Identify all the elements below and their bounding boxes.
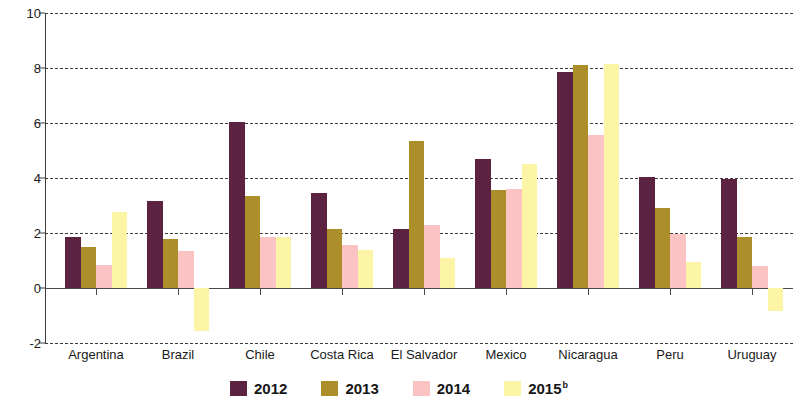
bar-group-chile: Chile (219, 13, 301, 343)
x-axis-category-label: Chile (245, 348, 275, 361)
bar-2014-brazil (178, 251, 194, 288)
x-axis-category-label: Costa Rica (310, 348, 374, 361)
bar-2012-chile (229, 122, 245, 288)
bar-group-brazil: Brazil (137, 13, 219, 343)
y-axis-tick-label: 6 (34, 117, 41, 130)
bar-2013-mexico (491, 190, 507, 288)
bar-2012-argentina (65, 237, 81, 288)
x-tick-mark (260, 288, 261, 295)
x-tick-mark (752, 288, 753, 295)
legend-item-2014[interactable]: 2014 (413, 381, 470, 396)
x-axis-category-label: Nicaragua (558, 348, 617, 361)
x-axis-category-label: El Salvador (391, 348, 457, 361)
bar-2014-chile (260, 237, 276, 288)
x-tick-mark (670, 288, 671, 295)
legend-label-2012: 2012 (254, 381, 287, 396)
legend-item-2012[interactable]: 2012 (230, 381, 287, 396)
bar-group-el-salvador: El Salvador (383, 13, 465, 343)
bar-2015-mexico (522, 164, 538, 288)
bar-2013-el-salvador (409, 141, 425, 288)
legend-swatch-2014 (413, 381, 430, 396)
bar-2013-uruguay (737, 237, 753, 288)
bar-2012-peru (639, 177, 655, 288)
y-axis-tick-label: 10 (27, 7, 41, 20)
bar-group-argentina: Argentina (55, 13, 137, 343)
gridline--2 (45, 343, 793, 344)
x-axis-category-label: Peru (656, 348, 683, 361)
bar-2012-uruguay (721, 179, 737, 288)
bar-2012-el-salvador (393, 229, 409, 288)
bar-2015-costa-rica (358, 250, 374, 289)
bar-2013-brazil (163, 239, 179, 289)
x-axis-category-label: Mexico (485, 348, 526, 361)
bar-2012-nicaragua (557, 72, 573, 288)
y-axis-tick-label: 4 (34, 172, 41, 185)
bar-2014-mexico (506, 189, 522, 288)
x-axis-category-label: Uruguay (727, 348, 776, 361)
x-tick-mark (588, 288, 589, 295)
bar-2015-argentina (112, 212, 128, 288)
bar-2014-uruguay (752, 266, 768, 288)
legend-item-2013[interactable]: 2013 (321, 381, 378, 396)
x-tick-mark (506, 288, 507, 295)
bar-2013-argentina (81, 247, 97, 288)
plot-area: 1086420-2 ArgentinaBrazilChileCosta Rica… (45, 13, 793, 343)
legend-label-2014: 2014 (437, 381, 470, 396)
bar-groups-layer: ArgentinaBrazilChileCosta RicaEl Salvado… (45, 13, 793, 343)
bar-2015-nicaragua (604, 64, 620, 288)
bar-2013-nicaragua (573, 65, 589, 288)
bar-group-peru: Peru (629, 13, 711, 343)
bar-group-uruguay: Uruguay (711, 13, 793, 343)
bar-2015-chile (276, 237, 292, 288)
legend-label-2013: 2013 (345, 381, 378, 396)
legend-footnote-marker: b (563, 380, 569, 390)
chart-legend: 2012201320142015b (0, 381, 798, 396)
x-tick-mark (96, 288, 97, 295)
bar-group-nicaragua: Nicaragua (547, 13, 629, 343)
bar-2014-costa-rica (342, 245, 358, 288)
bar-2014-el-salvador (424, 225, 440, 288)
bar-2012-costa-rica (311, 193, 327, 288)
x-tick-mark (178, 288, 179, 295)
legend-swatch-2015 (504, 381, 521, 396)
y-axis-tick-label: 0 (34, 282, 41, 295)
y-axis-tick-label: 8 (34, 62, 41, 75)
bar-2014-peru (670, 234, 686, 288)
x-axis-category-label: Argentina (68, 348, 124, 361)
legend-swatch-2013 (321, 381, 338, 396)
legend-swatch-2012 (230, 381, 247, 396)
bar-2013-costa-rica (327, 229, 343, 288)
bar-group-mexico: Mexico (465, 13, 547, 343)
bar-2015-el-salvador (440, 258, 456, 288)
legend-label-2015: 2015b (528, 381, 568, 396)
bar-2014-nicaragua (588, 135, 604, 288)
bar-group-costa-rica: Costa Rica (301, 13, 383, 343)
x-tick-mark (342, 288, 343, 295)
bar-2015-brazil (194, 288, 210, 331)
bar-2015-peru (686, 262, 702, 288)
y-axis-tick-label: 2 (34, 227, 41, 240)
bar-2015-uruguay (768, 288, 784, 311)
bar-chart-figure: 1086420-2 ArgentinaBrazilChileCosta Rica… (0, 0, 798, 415)
bar-2012-brazil (147, 201, 163, 288)
bar-2014-argentina (96, 265, 112, 288)
y-axis-tick-label: -2 (29, 337, 41, 350)
legend-item-2015[interactable]: 2015b (504, 381, 568, 396)
bar-2012-mexico (475, 159, 491, 288)
x-tick-mark (424, 288, 425, 295)
bar-2013-peru (655, 208, 671, 288)
x-axis-category-label: Brazil (162, 348, 195, 361)
bar-2013-chile (245, 196, 261, 288)
